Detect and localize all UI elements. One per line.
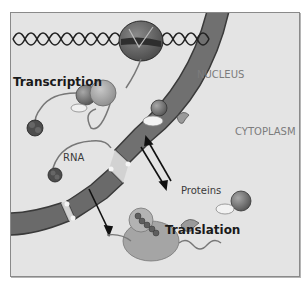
label-proteins: Proteins bbox=[181, 186, 221, 196]
nuclear-pore bbox=[71, 216, 76, 221]
protein-import-arrow bbox=[148, 141, 171, 181]
label-cytoplasm: CYTOPLASM bbox=[235, 127, 296, 137]
nuclear-pore bbox=[65, 202, 70, 207]
dna-helix bbox=[13, 33, 209, 45]
nuclear-pore bbox=[126, 162, 131, 167]
label-rna: RNA bbox=[63, 153, 84, 163]
rna-polymerase bbox=[119, 21, 163, 61]
mrna-strand bbox=[179, 240, 221, 249]
diagram-illustration bbox=[11, 13, 300, 277]
rna-cap-lower bbox=[48, 168, 62, 182]
label-transcription: Transcription bbox=[13, 76, 102, 88]
rna-cap-upper bbox=[27, 120, 43, 136]
label-translation: Translation bbox=[165, 224, 240, 236]
nuclear-pore bbox=[109, 167, 114, 172]
diagram-frame: Transcription NUCLEUS CYTOPLASM RNA Prot… bbox=[10, 12, 300, 277]
protein-export-arrow bbox=[141, 147, 164, 185]
label-nucleus: NUCLEUS bbox=[197, 70, 244, 80]
